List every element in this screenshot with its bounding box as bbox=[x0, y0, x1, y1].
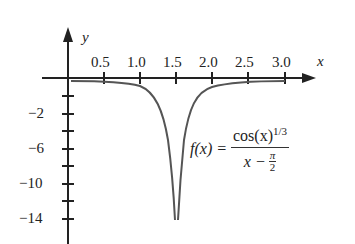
pi-denominator: 2 bbox=[270, 162, 276, 173]
x-tick-label: 2.0 bbox=[199, 55, 218, 70]
y-tick-label: −2 bbox=[28, 106, 44, 121]
y-axis-label: y bbox=[82, 30, 89, 45]
y-axis-arrow-icon bbox=[63, 27, 73, 42]
x-axis-arrow-icon bbox=[302, 73, 316, 83]
y-tick-label: −14 bbox=[19, 211, 42, 226]
formula-denominator: x − bbox=[244, 153, 266, 171]
x-tick-label: 0.5 bbox=[91, 55, 110, 70]
x-tick-label: 1.0 bbox=[127, 55, 146, 70]
x-tick-label: 2.5 bbox=[235, 55, 254, 70]
x-tick-label: 1.5 bbox=[163, 55, 182, 70]
formula-fraction: cos(x)1/3 x −π2 bbox=[231, 125, 289, 173]
y-tick-label: −6 bbox=[28, 141, 44, 156]
y-tick-label: −10 bbox=[19, 176, 42, 191]
plot-canvas bbox=[0, 0, 355, 244]
function-formula: f(x) = cos(x)1/3 x −π2 bbox=[190, 125, 289, 173]
formula-lhs: f(x) = bbox=[190, 140, 227, 158]
x-tick-label: 3.0 bbox=[272, 55, 291, 70]
function-curve bbox=[71, 81, 175, 220]
formula-exponent: 1/3 bbox=[273, 125, 287, 137]
x-axis-label: x bbox=[317, 54, 324, 69]
formula-numerator: cos(x) bbox=[233, 127, 273, 144]
